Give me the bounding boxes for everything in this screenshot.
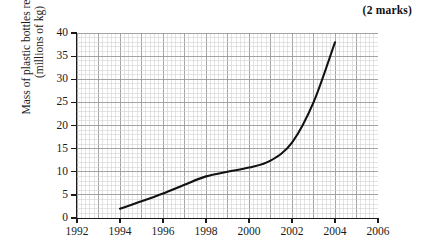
y-tick: [71, 171, 76, 172]
data-curve: [77, 33, 378, 218]
y-tick: [71, 56, 76, 57]
x-tick-label: 1998: [183, 226, 229, 238]
x-tick-label: 1996: [140, 226, 186, 238]
y-tick-label: 20: [42, 120, 68, 132]
x-tick: [205, 218, 206, 223]
x-tick-label: 1994: [97, 226, 143, 238]
y-tick: [71, 125, 76, 126]
y-tick-label: 0: [42, 212, 68, 224]
y-tick: [71, 194, 76, 195]
y-tick-label: 35: [42, 50, 68, 62]
x-tick: [76, 218, 77, 223]
x-tick: [334, 218, 335, 223]
y-tick-label: 5: [42, 189, 68, 201]
y-axis-title-line-2: (millions of kg): [33, 6, 47, 78]
y-tick-label: 10: [42, 166, 68, 178]
chart-figure: Mass of plastic bottles recycled (millio…: [0, 0, 421, 251]
y-tick: [71, 32, 76, 33]
x-tick: [291, 218, 292, 223]
x-tick-label: 2006: [355, 226, 401, 238]
x-tick: [119, 218, 120, 223]
x-tick-label: 2000: [226, 226, 272, 238]
y-tick-label: 25: [42, 96, 68, 108]
y-tick-label: 30: [42, 73, 68, 85]
x-tick: [377, 218, 378, 223]
x-tick-label: 1992: [54, 226, 100, 238]
y-tick: [71, 79, 76, 80]
y-tick: [71, 148, 76, 149]
y-tick: [71, 102, 76, 103]
x-tick-label: 2004: [312, 226, 358, 238]
y-tick: [71, 217, 76, 218]
y-axis-title: Mass of plastic bottles recycled (millio…: [16, 0, 50, 137]
y-tick-label: 15: [42, 143, 68, 155]
y-axis-line: [76, 32, 77, 220]
x-tick: [162, 218, 163, 223]
plot-area: [77, 33, 378, 218]
x-tick-label: 2002: [269, 226, 315, 238]
y-tick-label: 40: [42, 27, 68, 39]
x-tick: [248, 218, 249, 223]
y-axis-title-line-1: Mass of plastic bottles recycled: [20, 0, 34, 115]
